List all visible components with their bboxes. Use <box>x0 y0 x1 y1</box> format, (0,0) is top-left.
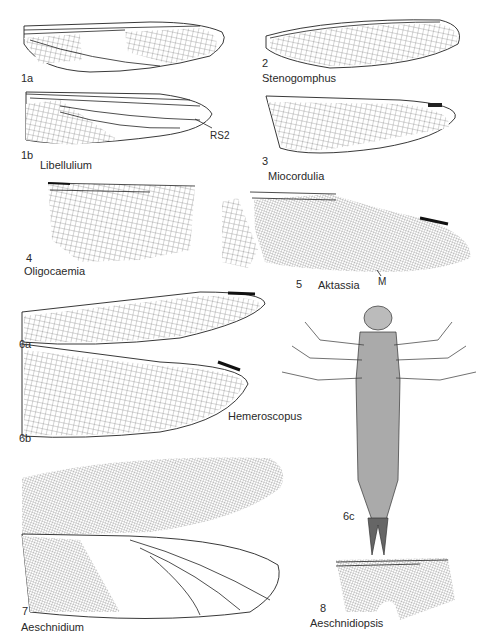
wing-8 <box>336 558 455 620</box>
wing-6b <box>22 344 248 437</box>
wing-1b <box>26 92 212 145</box>
taxon-libellulium: Libellulium <box>40 159 92 171</box>
taxon-hemeroscopus: Hemeroscopus <box>228 410 302 422</box>
wing-5 <box>222 192 471 276</box>
panel-label-4: 4 <box>26 252 32 264</box>
wing-6a <box>22 292 265 344</box>
panel-label-6c: 6c <box>343 510 355 522</box>
panel-label-6a: 6a <box>19 338 31 350</box>
taxon-stenogomphus: Stenogomphus <box>262 72 336 84</box>
taxon-miocordulia: Miocordulia <box>268 170 324 182</box>
panel-label-2: 2 <box>262 57 268 69</box>
wing-4 <box>48 183 195 262</box>
wing-1a <box>24 22 224 72</box>
panel-label-5: 5 <box>296 278 302 290</box>
panel-label-6b: 6b <box>19 432 31 444</box>
taxon-oligocaemia: Oligocaemia <box>24 265 85 277</box>
annotation-rs2: RS2 <box>210 130 229 142</box>
figure-plate: 1a 1b RS2 Libellulium 2 Stenogomphus 3 M… <box>0 0 492 642</box>
panel-label-3: 3 <box>262 155 268 167</box>
panel-label-7: 7 <box>22 605 28 617</box>
larva-6c <box>282 306 476 555</box>
pterostigma <box>428 103 442 107</box>
wing-7 <box>22 457 283 618</box>
wing-3 <box>266 96 455 153</box>
taxon-aeschnidiopsis: Aeschnidiopsis <box>310 617 383 629</box>
panel-label-8: 8 <box>320 602 326 614</box>
wing-2 <box>266 20 460 68</box>
panel-label-1b: 1b <box>21 149 33 161</box>
taxon-aktassia: Aktassia <box>318 279 360 291</box>
figure-drawings <box>0 0 492 642</box>
panel-label-1a: 1a <box>21 72 33 84</box>
taxon-aeschnidium: Aeschnidium <box>21 621 84 633</box>
annotation-m: M <box>378 276 386 288</box>
